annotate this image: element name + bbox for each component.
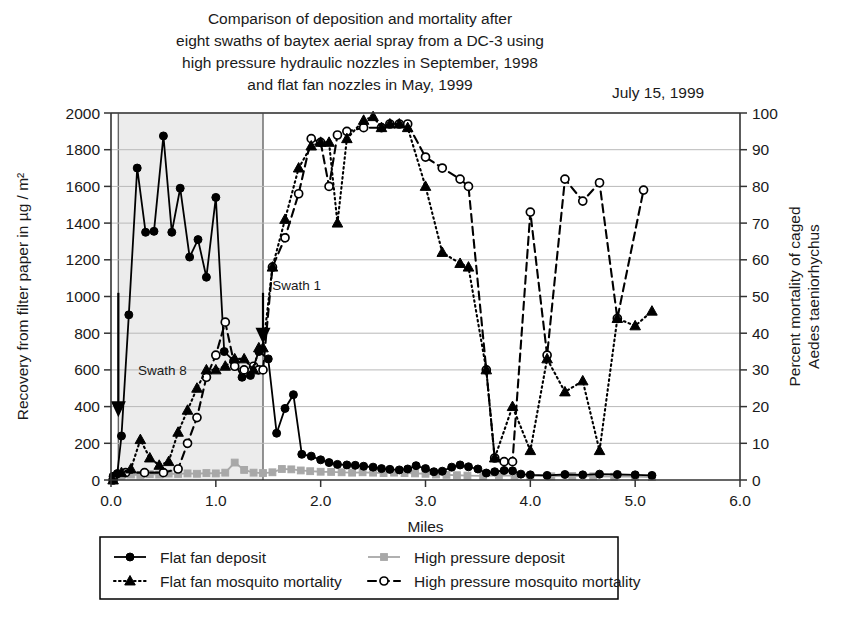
- data-point-open-circle: [221, 318, 229, 326]
- data-point-open-circle: [184, 439, 192, 447]
- xtick-label: 3.0: [415, 492, 437, 509]
- data-point-filled-circle: [596, 470, 604, 478]
- x-axis-title: Miles: [407, 518, 443, 535]
- data-point-filled-triangle: [594, 445, 605, 454]
- ytick-label-left: 1000: [66, 288, 101, 305]
- data-point-filled-circle: [125, 311, 133, 319]
- data-point-filled-circle: [212, 193, 220, 201]
- data-point-filled-triangle: [293, 163, 304, 172]
- data-point-filled-circle: [307, 452, 315, 460]
- data-point-open-circle: [422, 153, 430, 161]
- data-point-filled-circle: [369, 463, 377, 471]
- data-point-filled-circle: [631, 471, 639, 479]
- ytick-label-left: 200: [74, 435, 100, 452]
- data-point-filled-circle: [561, 470, 569, 478]
- ytick-label-right: 50: [752, 288, 770, 305]
- data-point-filled-circle: [526, 471, 534, 479]
- data-point-filled-circle: [159, 132, 167, 140]
- data-point-open-circle: [561, 175, 569, 183]
- annotation-label-1: Swath 1: [272, 278, 321, 293]
- data-point-filled-circle: [220, 348, 228, 356]
- ytick-label-left: 2000: [66, 105, 101, 122]
- data-point-filled-square: [194, 470, 201, 477]
- data-point-open-circle: [333, 131, 341, 139]
- data-point-filled-circle: [395, 466, 403, 474]
- data-point-filled-square: [338, 469, 345, 476]
- data-point-filled-circle: [176, 184, 184, 192]
- data-point-filled-square: [412, 470, 419, 477]
- legend: Flat fan depositHigh pressure depositFla…: [100, 537, 641, 599]
- data-point-open-circle: [464, 182, 472, 190]
- data-point-open-circle: [325, 182, 333, 190]
- legend-label: High pressure deposit: [414, 549, 565, 566]
- data-point-filled-circle: [482, 469, 490, 477]
- legend-label: Flat fan mosquito mortality: [160, 573, 342, 590]
- data-point-filled-circle: [360, 462, 368, 470]
- ytick-label-right: 60: [752, 251, 770, 268]
- ytick-label-left: 1200: [66, 251, 101, 268]
- data-point-filled-circle: [168, 228, 176, 236]
- data-point-filled-circle: [474, 465, 482, 473]
- ytick-label-right: 90: [752, 141, 770, 158]
- ytick-label-left: 1400: [66, 215, 101, 232]
- ytick-label-right: 70: [752, 215, 770, 232]
- data-point-filled-triangle: [437, 247, 448, 256]
- xtick-label: 0.0: [100, 492, 122, 509]
- data-point-open-circle: [640, 186, 648, 194]
- data-point-filled-circle: [579, 471, 587, 479]
- data-point-filled-circle: [333, 460, 341, 468]
- xtick-label: 1.0: [205, 492, 227, 509]
- data-point-filled-circle: [298, 450, 306, 458]
- legend-label: High pressure mosquito mortality: [414, 573, 641, 590]
- data-point-filled-square: [307, 468, 314, 475]
- data-point-filled-circle: [186, 253, 194, 261]
- data-point-filled-circle: [194, 236, 202, 244]
- data-point-filled-circle: [126, 553, 134, 561]
- data-point-filled-square: [328, 469, 335, 476]
- data-point-filled-circle: [509, 467, 517, 475]
- data-point-filled-circle: [343, 461, 351, 469]
- data-point-filled-circle: [422, 465, 430, 473]
- data-point-filled-triangle: [630, 320, 641, 329]
- data-point-open-circle: [193, 414, 201, 422]
- data-point-filled-square: [250, 469, 257, 476]
- data-point-filled-circle: [289, 391, 297, 399]
- data-point-filled-circle: [412, 462, 420, 470]
- xtick-label: 5.0: [624, 492, 646, 509]
- data-point-open-circle: [159, 469, 167, 477]
- data-point-filled-square: [212, 470, 219, 477]
- data-point-open-circle: [174, 465, 182, 473]
- data-point-filled-triangle: [420, 181, 431, 190]
- data-point-filled-circle: [500, 466, 508, 474]
- data-point-filled-square: [231, 459, 238, 466]
- xtick-label: 4.0: [520, 492, 542, 509]
- data-point-open-circle: [456, 175, 464, 183]
- data-point-open-circle: [212, 351, 220, 359]
- data-point-open-circle: [438, 164, 446, 172]
- data-point-filled-square: [222, 469, 229, 476]
- data-point-filled-circle: [202, 273, 210, 281]
- y-axis-title-right-line-1: Aedes taeniorhychus: [805, 224, 822, 369]
- data-point-filled-square: [203, 470, 210, 477]
- data-point-open-circle: [259, 366, 267, 374]
- ytick-label-left: 0: [91, 472, 100, 489]
- data-point-filled-square: [381, 554, 388, 561]
- data-point-filled-square: [241, 467, 248, 474]
- data-point-filled-circle: [386, 465, 394, 473]
- data-point-filled-circle: [150, 227, 158, 235]
- data-point-filled-square: [569, 473, 576, 480]
- ytick-label-left: 800: [74, 325, 100, 342]
- data-point-filled-triangle: [560, 386, 571, 395]
- data-point-open-circle: [281, 234, 289, 242]
- data-point-open-circle: [579, 197, 587, 205]
- data-point-filled-circle: [464, 463, 472, 471]
- data-point-open-circle: [141, 469, 149, 477]
- xtick-label: 6.0: [729, 492, 751, 509]
- data-point-filled-triangle: [280, 214, 291, 223]
- figure-container: Comparison of deposition and mortality a…: [0, 0, 853, 634]
- data-point-open-circle: [596, 179, 604, 187]
- data-point-filled-circle: [456, 461, 464, 469]
- data-point-filled-square: [288, 466, 295, 473]
- ytick-label-right: 20: [752, 398, 770, 415]
- data-point-filled-square: [349, 469, 356, 476]
